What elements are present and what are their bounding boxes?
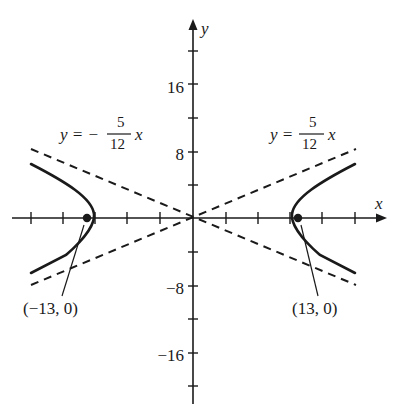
right-asymptote-equation: y = 5 12 x xyxy=(268,114,336,152)
y-axis-arrow-icon xyxy=(189,19,198,30)
left-eq-var: x xyxy=(134,125,143,144)
right-eq-var: x xyxy=(327,125,336,144)
left-asymptote-equation: y = − 5 12 x xyxy=(58,114,143,152)
x-axis-arrow-icon xyxy=(376,214,387,223)
right-eq-num: 5 xyxy=(309,114,317,130)
vertex-point-left xyxy=(83,214,91,222)
left-eq-prefix: y = − xyxy=(58,125,99,144)
vertex-point-right xyxy=(294,214,302,222)
y-tick-label-16: 16 xyxy=(167,78,184,97)
y-axis-label: y xyxy=(199,19,209,38)
x-axis-label: x xyxy=(374,194,383,213)
y-tick-label-m8: −8 xyxy=(166,279,184,298)
leader-line-right xyxy=(301,225,318,296)
hyperbola-chart: y x 16 8 −8 −16 y = − 5 12 x y = 5 12 x … xyxy=(0,0,397,408)
y-tick-label-8: 8 xyxy=(176,145,185,164)
y-tick-label-m16: −16 xyxy=(157,346,184,365)
left-vertex-label: (−13, 0) xyxy=(23,299,78,318)
left-eq-den: 12 xyxy=(110,136,125,152)
leader-line-left xyxy=(62,225,84,296)
left-eq-num: 5 xyxy=(117,114,125,130)
right-vertex-label: (13, 0) xyxy=(292,299,337,318)
right-eq-prefix: y = xyxy=(268,125,293,144)
right-eq-den: 12 xyxy=(302,136,317,152)
